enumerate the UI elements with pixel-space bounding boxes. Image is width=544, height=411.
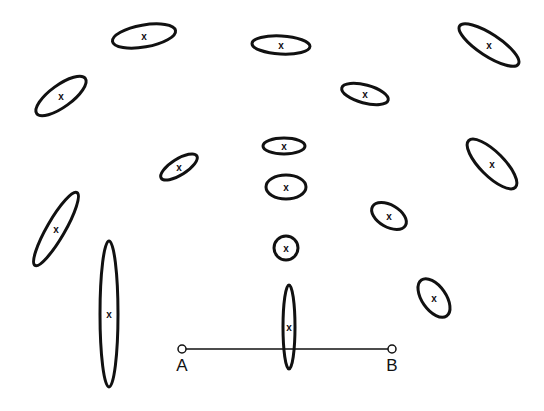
error-ellipse: x — [30, 69, 91, 122]
center-x-marker: x — [486, 40, 492, 51]
error-ellipse: x — [367, 197, 411, 235]
center-x-marker: x — [176, 162, 182, 173]
center-x-marker: x — [489, 159, 495, 170]
endpoint-a-label: A — [176, 356, 188, 375]
center-x-marker: x — [106, 309, 112, 320]
error-ellipse: x — [157, 149, 201, 185]
ellipses-layer: xxxxxxxxxxxxxxx — [27, 17, 524, 387]
error-ellipse: x — [263, 138, 305, 154]
center-x-marker: x — [431, 293, 437, 304]
error-ellipse: x — [460, 132, 524, 196]
baseline-segment: A B — [176, 345, 397, 375]
center-x-marker: x — [58, 91, 64, 102]
error-ellipse: x — [412, 273, 457, 323]
error-ellipse-diagram: xxxxxxxxxxxxxxx A B — [0, 0, 544, 411]
error-ellipse: x — [100, 241, 118, 387]
endpoint-b-label: B — [386, 356, 397, 375]
error-ellipse: x — [339, 79, 390, 109]
center-x-marker: x — [386, 211, 392, 222]
center-x-marker: x — [362, 89, 368, 100]
error-ellipse: x — [454, 17, 525, 74]
error-ellipse: x — [266, 175, 306, 199]
endpoint-a-marker — [178, 345, 186, 353]
center-x-marker: x — [283, 243, 289, 254]
center-x-marker: x — [53, 224, 59, 235]
error-ellipse: x — [111, 20, 178, 53]
error-ellipse: x — [27, 188, 85, 270]
center-x-marker: x — [278, 40, 284, 51]
center-x-marker: x — [283, 182, 289, 193]
center-x-marker: x — [286, 322, 292, 333]
error-ellipse: x — [252, 34, 311, 55]
error-ellipse: x — [283, 285, 295, 369]
center-x-marker: x — [141, 31, 147, 42]
endpoint-b-marker — [388, 345, 396, 353]
center-x-marker: x — [281, 141, 287, 152]
error-ellipse: x — [274, 236, 298, 260]
